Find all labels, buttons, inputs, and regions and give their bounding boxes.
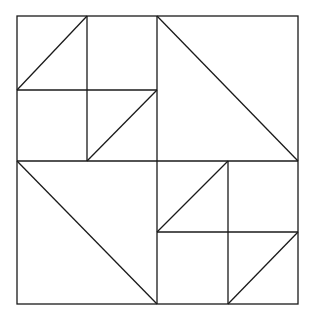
top-right-quadrant-diagonal	[157, 16, 298, 161]
top-left-lower-diagonal	[87, 90, 157, 161]
top-left-upper-diagonal	[17, 16, 87, 90]
quilt-pattern-diagram	[0, 0, 314, 322]
bottom-right-lower-diagonal	[228, 232, 298, 304]
bottom-left-quadrant-diagonal	[17, 161, 157, 304]
diagram-lines	[17, 16, 298, 304]
bottom-right-upper-diagonal	[157, 161, 228, 232]
